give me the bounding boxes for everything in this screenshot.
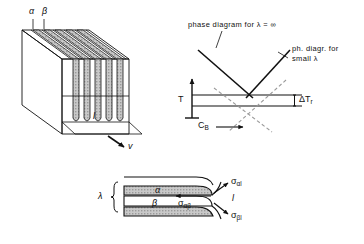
block-label-alpha: α [29, 7, 34, 16]
velocity-arrow [108, 136, 124, 147]
block-label-velocity: v [128, 142, 133, 151]
sigma-alpha-l-label: σαl [231, 177, 242, 187]
block-diagram [22, 19, 142, 147]
interface-diagram [111, 177, 228, 219]
phase-diagram [185, 31, 302, 132]
delta-T-main: ΔT [299, 94, 311, 104]
interface-label-beta: β [152, 199, 157, 208]
axis-label-CB: CB [198, 121, 209, 131]
block-label-beta: β [42, 7, 47, 16]
axis-label-T: T [178, 95, 184, 104]
upper-lamella-edge [124, 177, 213, 185]
phase-diagram-caption-small-line2: small λ [292, 55, 318, 63]
delta-T-sub: r [311, 98, 313, 105]
lambda-bracket [111, 182, 118, 212]
interface-label-liquid: l [232, 194, 234, 203]
sigma-beta-l-arrow [214, 203, 228, 214]
delta-T-label: ΔTr [299, 95, 313, 105]
interface-label-alpha: α [155, 186, 160, 195]
caption-leader-infinite [216, 31, 222, 48]
axis-label-CB-sub: B [205, 124, 209, 131]
sigma-alpha-l-arrow [214, 183, 228, 193]
phase-diagram-caption-small-line1: ph. diagr. for [292, 45, 339, 53]
block-label-spacing: l [93, 112, 95, 121]
sigma-beta-l-label: σβl [231, 211, 242, 221]
alpha-beta-leaders [33, 19, 44, 29]
sigma-alpha-beta-sub: αβ [184, 202, 191, 209]
tip-curves [212, 182, 221, 219]
phase-diagram-caption-infinite: phase diagram for λ = ∞ [188, 21, 276, 29]
lower-alpha-lamella-shape [124, 207, 213, 216]
sigma-alpha-l-sub: αl [237, 180, 242, 187]
interface-label-lambda: λ [98, 192, 102, 201]
figure-root: α β l v phase diagram for λ = ∞ ph. diag… [0, 0, 364, 244]
beta-lamella-shape [124, 196, 212, 206]
sigma-beta-l-sub: βl [237, 214, 242, 221]
sigma-alpha-beta-label: σαβ [178, 199, 191, 209]
lamellae-front [73, 59, 123, 121]
liquidus-infinite [198, 50, 290, 98]
alpha-lamella-shape [124, 186, 212, 195]
delta-T-bracket [293, 95, 296, 106]
